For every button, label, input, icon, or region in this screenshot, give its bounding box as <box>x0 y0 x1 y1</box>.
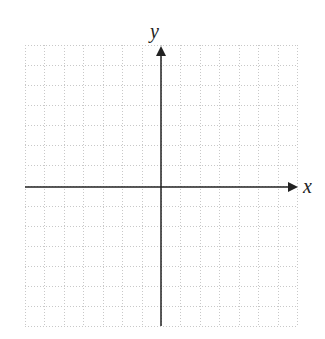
y-axis-label: y <box>150 21 159 41</box>
x-axis-label: x <box>303 176 312 196</box>
coordinate-grid <box>0 0 325 339</box>
